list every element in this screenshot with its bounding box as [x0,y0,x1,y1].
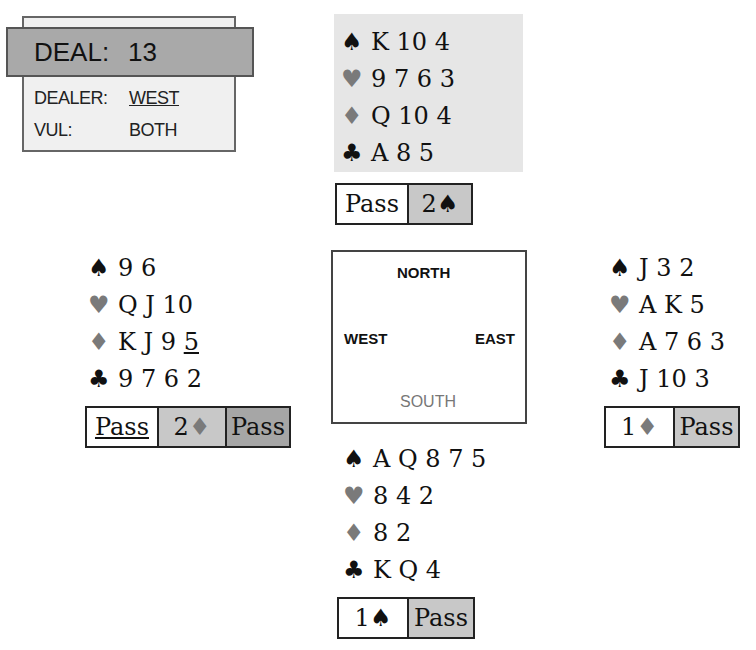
north-clubs: A 8 5 [371,139,434,167]
diamond-icon: ♦ [636,413,658,441]
compass-box: NORTH WEST EAST SOUTH [331,250,527,424]
deal-label: DEAL: [34,37,109,68]
heart-icon: ♥ [88,287,118,324]
spade-icon: ♠ [343,441,373,478]
west-hearts: Q J 10 [118,291,193,319]
deal-header: DEAL: 13 [6,27,254,77]
spade-icon: ♠ [341,24,371,61]
heart-icon: ♥ [343,478,373,515]
heart-icon: ♥ [341,61,371,98]
diamond-icon: ♦ [343,515,373,552]
club-icon: ♣ [609,361,639,398]
bid-north-2: 2♠ [407,185,471,223]
south-hand: ♠A Q 8 7 5 ♥8 4 2 ♦8 2 ♣K Q 4 [343,441,486,589]
bid-west-2: 2♦ [157,408,225,446]
diamond-icon: ♦ [189,413,211,441]
bid-level: 2 [422,190,437,218]
west-clubs: 9 7 6 2 [118,365,202,393]
east-spades: J 3 2 [639,254,694,282]
vul-value: BOTH [129,120,177,141]
compass-south: SOUTH [400,393,456,411]
spade-icon: ♠ [437,190,459,218]
west-diamonds: K J 9 [118,328,184,356]
north-hearts: 9 7 6 3 [371,65,455,93]
spade-icon: ♠ [609,250,639,287]
west-hand: ♠9 6 ♥Q J 10 ♦K J 9 5 ♣9 7 6 2 [88,250,202,398]
club-icon: ♣ [88,361,118,398]
bid-south-2: Pass [407,599,473,637]
diamond-icon: ♦ [609,324,639,361]
south-hearts: 8 4 2 [373,482,434,510]
south-clubs: K Q 4 [373,556,441,584]
north-bidding: Pass 2♠ [335,183,473,225]
north-diamonds: Q 10 4 [371,102,452,130]
east-hearts: A K 5 [639,291,705,319]
bid-east-1: 1♦ [606,408,673,446]
compass-north: NORTH [397,264,450,281]
east-hand: ♠J 3 2 ♥A K 5 ♦A 7 6 3 ♣J 10 3 [609,250,725,398]
dealer-label: DEALER: [34,88,108,109]
bid-east-2: Pass [673,408,738,446]
bid-level: 2 [174,413,189,441]
north-hand: ♠K 10 4 ♥9 7 6 3 ♦Q 10 4 ♣A 8 5 [341,24,455,172]
compass-east: EAST [475,330,515,347]
bid-west-1: Pass [87,408,157,446]
bid-south-1: 1♠ [339,599,407,637]
south-bidding: 1♠ Pass [337,597,475,639]
west-diamonds-lead-card: 5 [184,328,199,356]
club-icon: ♣ [341,135,371,172]
club-icon: ♣ [343,552,373,589]
bid-level: 1 [355,604,370,632]
north-spades: K 10 4 [371,28,450,56]
deal-number: 13 [128,37,157,68]
dealer-value: WEST [129,88,179,109]
bid-level: 1 [621,413,636,441]
spade-icon: ♠ [88,250,118,287]
bid-north-1: Pass [337,185,407,223]
east-bidding: 1♦ Pass [604,406,740,448]
south-diamonds: 8 2 [373,519,411,547]
bid-west-3: Pass [225,408,289,446]
heart-icon: ♥ [609,287,639,324]
spade-icon: ♠ [370,604,392,632]
east-clubs: J 10 3 [639,365,710,393]
diamond-icon: ♦ [88,324,118,361]
west-spades: 9 6 [118,254,156,282]
south-spades: A Q 8 7 5 [373,445,486,473]
diamond-icon: ♦ [341,98,371,135]
east-diamonds: A 7 6 3 [639,328,725,356]
west-bidding: Pass 2♦ Pass [85,406,291,448]
vul-label: VUL: [34,120,72,141]
compass-west: WEST [344,330,387,347]
